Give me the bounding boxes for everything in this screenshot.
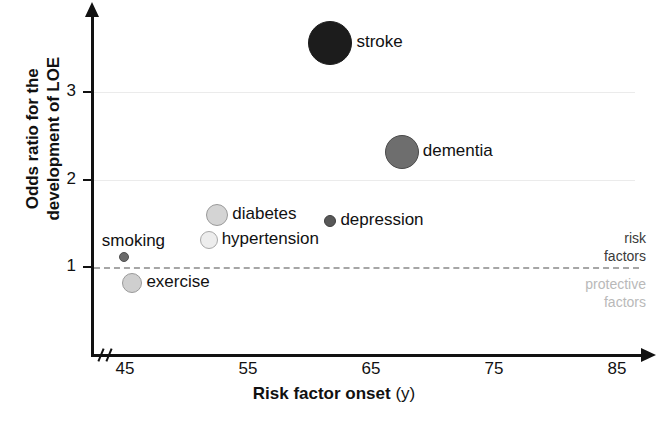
y-axis-title: Odds ratio for the development of LOE bbox=[23, 0, 64, 279]
x-axis-title-unit: (y) bbox=[395, 384, 415, 403]
y-tick-label-3: 3 bbox=[52, 81, 76, 101]
bubble-depression[interactable] bbox=[324, 215, 336, 227]
y-tick-3 bbox=[83, 91, 93, 93]
bubble-dementia[interactable] bbox=[385, 135, 419, 169]
x-tick-label-45: 45 bbox=[103, 359, 147, 379]
point-label-depression: depression bbox=[340, 210, 423, 230]
x-axis-title-bold: Risk factor onset bbox=[253, 384, 391, 403]
y-axis-title-line1: Odds ratio for the bbox=[23, 68, 42, 209]
bubble-smoking[interactable] bbox=[119, 252, 129, 262]
x-axis-arrow-icon bbox=[641, 348, 656, 362]
annotation-risk-factors: risk factors bbox=[604, 230, 646, 265]
x-tick-label-55: 55 bbox=[226, 359, 270, 379]
reference-line-odds-ratio-1 bbox=[94, 267, 639, 269]
x-tick-label-85: 85 bbox=[595, 359, 639, 379]
y-tick-label-1: 1 bbox=[52, 256, 76, 276]
chart-canvas: Odds ratio for the development of LOE Ri… bbox=[0, 0, 668, 424]
point-label-stroke: stroke bbox=[356, 32, 402, 52]
y-axis-line bbox=[91, 14, 94, 356]
bubble-stroke[interactable] bbox=[308, 21, 352, 65]
x-axis-line bbox=[91, 354, 643, 357]
bubble-diabetes[interactable] bbox=[206, 204, 228, 226]
gridline-y-3 bbox=[94, 92, 635, 93]
point-label-exercise: exercise bbox=[146, 272, 209, 292]
x-tick-label-75: 75 bbox=[472, 359, 516, 379]
bubble-exercise[interactable] bbox=[122, 273, 142, 293]
y-tick-label-2: 2 bbox=[52, 169, 76, 189]
y-tick-2 bbox=[83, 179, 93, 181]
annotation-protective-factors: protective factors bbox=[585, 276, 646, 311]
point-label-hypertension: hypertension bbox=[222, 229, 319, 249]
gridline-y-2 bbox=[94, 180, 635, 181]
y-axis-arrow-icon bbox=[85, 2, 99, 17]
point-label-smoking: smoking bbox=[102, 231, 165, 251]
point-label-diabetes: diabetes bbox=[232, 204, 296, 224]
y-tick-1 bbox=[83, 266, 93, 268]
bubble-hypertension[interactable] bbox=[200, 231, 218, 249]
point-label-dementia: dementia bbox=[423, 141, 493, 161]
x-axis-title: Risk factor onset (y) bbox=[0, 384, 668, 404]
x-tick-label-65: 65 bbox=[349, 359, 393, 379]
